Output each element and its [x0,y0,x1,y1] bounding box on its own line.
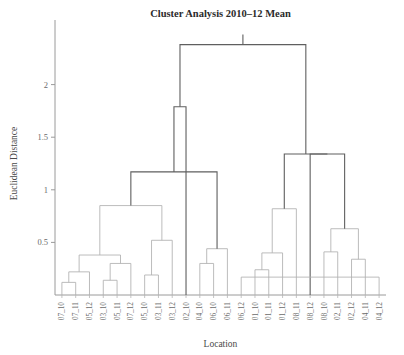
dendrogram-link [180,45,306,154]
x-tick-label: 06_11 [223,302,232,320]
x-tick-label: 04_12 [375,302,384,321]
axes: 0.511.52 [37,20,386,295]
dendrogram-link [272,209,296,295]
x-tick-label: 08_12 [306,302,315,321]
x-tick-label: 01_12 [278,302,287,321]
y-tick-label: 0.5 [37,237,48,247]
dendrogram-link [62,282,76,295]
y-tick-label: 2 [44,80,48,90]
x-tick-label: 03_12 [168,302,177,321]
x-tick-label: 06_12 [237,302,246,321]
dendrogram-link [262,253,283,295]
y-tick-label: 1 [44,185,48,195]
dendrogram-links [62,45,379,295]
dendrogram-link [103,280,117,295]
dendrogram-link [100,206,162,255]
x-tick-label: 07_10 [57,302,66,321]
x-tick-label: 05_10 [140,302,149,321]
y-tick-label: 1.5 [37,132,48,142]
x-tick-label: 06_10 [209,302,218,321]
dendrogram-link [69,272,90,295]
chart-title: Cluster Analysis 2010–12 Mean [150,8,291,19]
x-tick-label: 08_11 [292,302,301,320]
y-axis-label: Euclidean Distance [9,127,19,201]
dendrogram-link [310,154,344,295]
x-tick-label: 04_11 [361,302,370,320]
dendrogram-link [145,275,159,295]
dendrogram-link [255,270,269,295]
dendrogram-link [284,154,327,209]
x-tick-label: 02_11 [333,302,342,320]
x-tick-label: 01_11 [264,302,273,320]
x-tick-label: 07_11 [71,302,80,320]
x-tick-label: 07_12 [126,302,135,321]
x-tick-label: 03_11 [154,302,163,320]
dendrogram-figure: 0.511.5207_1007_1105_1203_1005_1107_1205… [0,0,404,355]
dendrogram-link [324,252,338,295]
x-tick-label: 02_12 [347,302,356,321]
x-tick-label: 04_10 [195,302,204,321]
x-tick-label: 01_10 [251,302,260,321]
dendrogram-link [331,229,359,260]
dendrogram-link [200,263,214,295]
x-axis-label: Location [204,339,238,349]
x-tick-labels: 07_1007_1105_1203_1005_1107_1205_1003_11… [57,295,383,320]
dendrogram-link [131,172,217,249]
x-tick-label: 02_10 [182,302,191,321]
x-tick-label: 03_10 [99,302,108,321]
x-tick-label: 05_12 [85,302,94,321]
dendrogram-canvas: 0.511.5207_1007_1105_1203_1005_1107_1205… [0,0,404,355]
x-tick-label: 05_11 [113,302,122,320]
dendrogram-link [110,263,131,295]
dendrogram-link [174,107,186,295]
dendrogram-link [207,249,228,295]
x-tick-label: 08_10 [320,302,329,321]
dendrogram-link [152,240,173,295]
